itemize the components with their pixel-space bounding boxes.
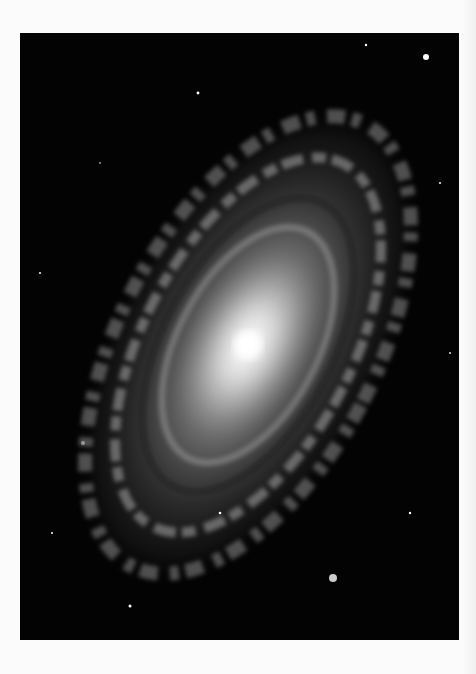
page-edge bbox=[462, 0, 476, 674]
galaxy-illustration bbox=[20, 33, 459, 640]
galaxy-photo bbox=[20, 33, 459, 640]
